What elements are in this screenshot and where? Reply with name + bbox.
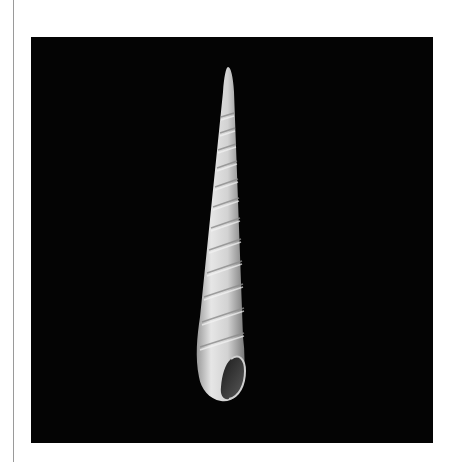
auger-shell-illustration bbox=[31, 37, 433, 443]
margin-rule bbox=[13, 0, 14, 462]
shell-body bbox=[197, 67, 245, 401]
shell-photo bbox=[31, 37, 433, 443]
